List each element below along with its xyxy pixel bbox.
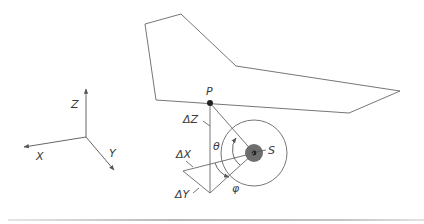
phi-arc: [215, 163, 229, 177]
dy-leader: [193, 188, 199, 193]
dx-label: ΔX: [175, 148, 192, 161]
diagram-canvas: Z X Y S ΔZ ΔX ΔY θ φ P: [0, 0, 424, 224]
offset-geometry: ΔZ ΔX ΔY θ φ: [174, 103, 254, 201]
theta-arc: [232, 138, 240, 165]
point-p: P: [206, 85, 213, 106]
y-axis-label: Y: [109, 147, 117, 160]
s-label: S: [268, 144, 275, 157]
dz-label: ΔZ: [182, 113, 199, 126]
dx-line: [183, 153, 254, 171]
p-dot: [207, 100, 213, 106]
phi-label: φ: [232, 182, 240, 195]
wing-outline: [145, 14, 400, 113]
bottom-divider: [8, 219, 424, 221]
x-axis: [24, 137, 86, 147]
dx-leader: [186, 161, 193, 167]
x-axis-label: X: [35, 150, 44, 163]
z-axis-label: Z: [70, 98, 79, 111]
theta-label: θ: [213, 140, 220, 153]
dz-leader: [203, 121, 210, 126]
dy-label: ΔY: [174, 188, 191, 201]
coordinate-axes: Z X Y: [24, 89, 117, 170]
p-label: P: [206, 85, 213, 98]
